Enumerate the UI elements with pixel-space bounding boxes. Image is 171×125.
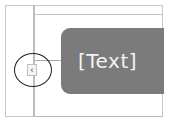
panel-text: [Text] (78, 49, 137, 73)
highlight-circle-annotation (14, 53, 52, 87)
footer-separator (35, 116, 163, 117)
header-separator (35, 14, 163, 15)
text-placeholder-panel: [Text] (61, 28, 164, 94)
